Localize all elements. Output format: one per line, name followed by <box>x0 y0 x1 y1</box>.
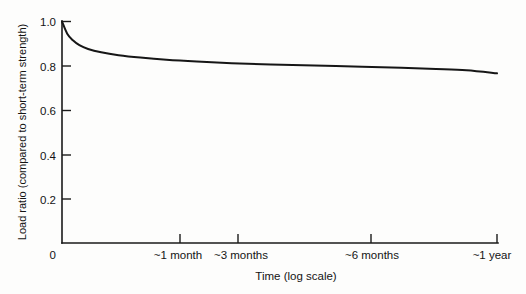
y-tick-label-0.6: 0.6 <box>40 105 56 117</box>
x-axis-title: Time (log scale) <box>255 270 337 282</box>
y-tick-label-0.4: 0.4 <box>40 150 57 162</box>
y-axis-title: Load ratio (compared to short-term stren… <box>16 24 28 240</box>
x-tick-label-6-months: ~6 months <box>345 249 399 261</box>
x-tick-label-1-year: ~1 year <box>473 249 512 261</box>
y-tick-label-0: 0 <box>50 249 56 261</box>
x-tick-label-1-month: ~1 month <box>154 249 202 261</box>
y-tick-label-0.8: 0.8 <box>40 61 56 73</box>
y-tick-label-1.0: 1.0 <box>40 16 56 28</box>
load-duration-chart: 1.0 0.8 0.6 0.4 0.2 0 ~1 month ~3 months… <box>0 0 526 294</box>
y-tick-label-0.2: 0.2 <box>40 194 56 206</box>
x-tick-label-3-months: ~3 months <box>214 249 268 261</box>
load-ratio-curve <box>62 22 497 74</box>
chart-screenshot: 1.0 0.8 0.6 0.4 0.2 0 ~1 month ~3 months… <box>0 0 526 294</box>
